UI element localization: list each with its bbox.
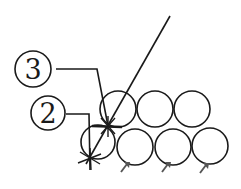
callout-3: 3 — [15, 51, 51, 87]
circle-bottom-2 — [117, 129, 153, 165]
arrow-icon — [200, 163, 209, 173]
callout-2-text: 2 — [39, 98, 56, 129]
circle-bottom-4 — [192, 128, 228, 164]
circle-top-2 — [137, 91, 173, 127]
diagonal-line — [86, 16, 170, 164]
callout-2: 2 — [31, 96, 65, 130]
callout-3-text: 3 — [24, 54, 41, 85]
arrow-icon — [121, 162, 130, 172]
arrow-icon — [162, 162, 171, 172]
leader-line-2 — [66, 114, 90, 170]
circle-bottom-3 — [155, 129, 191, 165]
diagram-canvas: 3 2 — [0, 0, 241, 189]
circle-top-3 — [174, 91, 210, 127]
